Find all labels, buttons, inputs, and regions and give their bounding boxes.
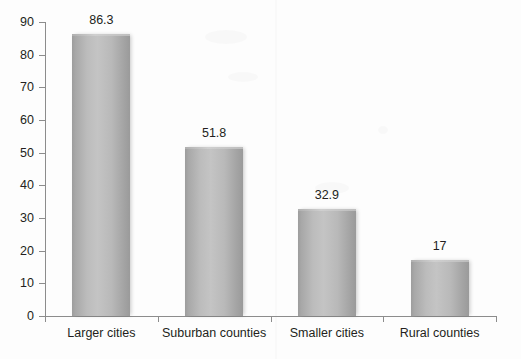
y-axis-line	[45, 22, 46, 316]
x-axis-tick	[496, 316, 497, 322]
bar-value-label: 17	[400, 240, 480, 253]
bar[interactable]	[185, 147, 243, 316]
y-axis-tick-label: 80	[6, 49, 34, 62]
y-axis-tick	[39, 87, 45, 88]
y-axis-tick	[39, 22, 45, 23]
y-axis-tick	[39, 55, 45, 56]
y-axis-tick	[39, 251, 45, 252]
x-axis-tick	[45, 316, 46, 322]
scan-artifact	[228, 72, 258, 82]
scan-artifact	[378, 126, 388, 134]
y-axis-tick-label: 20	[6, 245, 34, 258]
bar-value-label: 32.9	[287, 189, 367, 202]
bar-chart: 9080706050403020100 86.351.832.917 Large…	[0, 0, 521, 359]
bar-value-label: 51.8	[174, 127, 254, 140]
scan-fold-line	[275, 0, 277, 359]
y-axis-tick-label: 50	[6, 147, 34, 160]
y-axis-tick	[39, 153, 45, 154]
y-axis-tick-label: 30	[6, 212, 34, 225]
bar[interactable]	[298, 209, 356, 316]
x-axis-tick	[271, 316, 272, 322]
y-axis-tick-label: 40	[6, 179, 34, 192]
x-axis-tick	[383, 316, 384, 322]
y-axis-tick	[39, 185, 45, 186]
y-axis-tick-label: 10	[6, 277, 34, 290]
bar-value-label: 86.3	[61, 14, 141, 27]
y-axis-tick-label: 90	[6, 16, 34, 29]
y-axis-tick-label: 70	[6, 81, 34, 94]
y-axis-tick-label: 60	[6, 114, 34, 127]
y-axis-tick	[39, 283, 45, 284]
y-axis-tick-label: 0	[6, 310, 34, 323]
bar[interactable]	[411, 260, 469, 316]
bar[interactable]	[72, 34, 130, 316]
x-axis-tick	[158, 316, 159, 322]
x-axis-category-label: Rural counties	[370, 327, 510, 340]
y-axis-tick	[39, 120, 45, 121]
y-axis-tick	[39, 218, 45, 219]
scan-artifact	[205, 30, 247, 44]
